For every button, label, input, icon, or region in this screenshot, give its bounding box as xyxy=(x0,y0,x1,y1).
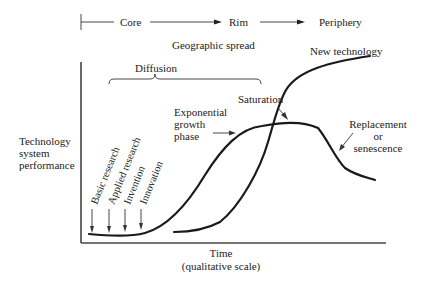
svg-text:system: system xyxy=(19,147,50,159)
svg-text:growth: growth xyxy=(174,118,206,130)
svg-text:senescence: senescence xyxy=(354,142,403,154)
svg-text:phase: phase xyxy=(174,130,199,142)
geographic-spread-label: Geographic spread xyxy=(172,39,255,51)
svg-text:or: or xyxy=(373,130,383,142)
stage-rim: Rim xyxy=(229,16,248,28)
new-technology-label: New technology xyxy=(310,45,383,57)
arrowhead-icon xyxy=(297,20,305,25)
replacement-label: Replacement or senescence xyxy=(349,118,406,154)
stage-periphery: Periphery xyxy=(319,16,362,28)
arrowhead-icon xyxy=(214,20,222,25)
svg-text:Technology: Technology xyxy=(19,135,71,147)
new-technology-curve xyxy=(174,56,370,232)
stage-core: Core xyxy=(120,16,142,28)
exponential-growth-label: Exponential growth phase xyxy=(174,106,227,142)
diffusion-brace xyxy=(109,74,261,84)
saturation-label: Saturation xyxy=(238,93,284,105)
diffusion-label: Diffusion xyxy=(135,62,177,74)
svg-text:Exponential: Exponential xyxy=(174,106,227,118)
x-axis-label: Time (qualitative scale) xyxy=(182,247,261,273)
svg-text:Time: Time xyxy=(210,247,233,259)
innovation-label: Innovation xyxy=(138,159,166,206)
stage-progression: Core Rim Periphery xyxy=(81,14,362,30)
technology-lifecycle-diagram: Core Rim Periphery Geographic spread New… xyxy=(0,0,430,281)
svg-text:Replacement: Replacement xyxy=(349,118,406,130)
arrowhead-icon xyxy=(123,225,127,232)
early-stage-markers xyxy=(90,209,143,233)
arrowhead-icon xyxy=(139,223,143,230)
arrowhead-icon xyxy=(229,131,236,136)
arrowhead-icon xyxy=(107,226,111,233)
svg-text:(qualitative scale): (qualitative scale) xyxy=(182,260,261,273)
y-axis-label: Technology system performance xyxy=(19,135,75,171)
arrowhead-icon xyxy=(90,226,94,233)
arrowhead-icon xyxy=(339,144,345,151)
svg-text:performance: performance xyxy=(19,159,75,171)
